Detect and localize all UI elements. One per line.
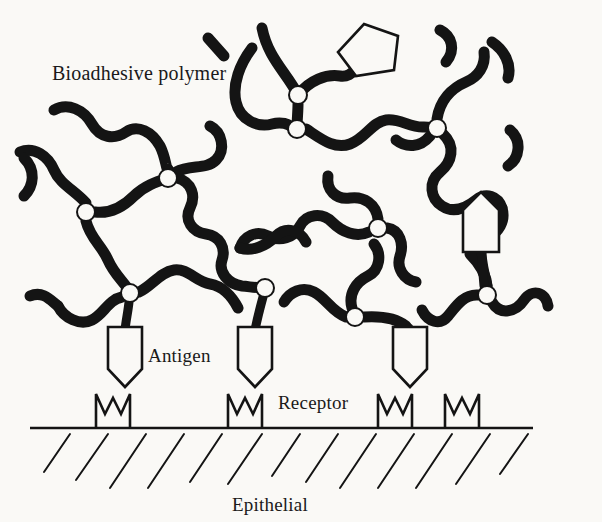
detached-chain-fragment bbox=[208, 38, 224, 56]
crosslink-node bbox=[428, 119, 446, 137]
polymer-chain bbox=[351, 244, 379, 308]
polymer-chain bbox=[284, 290, 346, 317]
polymer-chain bbox=[328, 176, 378, 219]
label-epithelial-cell: Epithelial cell bbox=[210, 450, 330, 522]
bound-antigen bbox=[238, 327, 272, 387]
receptor bbox=[228, 394, 262, 428]
crosslink-node bbox=[346, 308, 364, 326]
crosslink-node bbox=[289, 86, 307, 104]
crosslink-node bbox=[288, 120, 306, 138]
polymer-chain bbox=[54, 107, 168, 169]
crosslink-node bbox=[256, 279, 274, 297]
polymer-chain bbox=[58, 297, 122, 322]
free-antigen-top bbox=[338, 24, 398, 76]
crosslink-node bbox=[478, 286, 496, 304]
receptor bbox=[96, 394, 130, 428]
bioadhesive-polymer-figure: Bioadhesive polymer Antigen Receptor Epi… bbox=[0, 0, 602, 522]
receptor bbox=[445, 394, 479, 428]
bound-antigen bbox=[108, 327, 142, 387]
antigen-stem bbox=[481, 250, 484, 286]
polymer-chain bbox=[24, 158, 32, 196]
polymer-chain bbox=[387, 228, 416, 282]
receptor bbox=[378, 394, 412, 428]
polymer-chain bbox=[364, 317, 406, 326]
polymer-chain bbox=[95, 178, 168, 212]
antigen-stem bbox=[255, 297, 263, 330]
polymer-chain bbox=[262, 28, 298, 95]
bound-antigen bbox=[393, 327, 427, 387]
polymer-chain bbox=[422, 295, 478, 322]
label-antigen: Antigen bbox=[148, 345, 211, 367]
label-bioadhesive-polymer: Bioadhesive polymer bbox=[52, 62, 226, 85]
polymer-chain bbox=[432, 134, 502, 210]
polymer-chain bbox=[440, 30, 452, 62]
crosslink-node bbox=[77, 203, 95, 221]
polymer-chain bbox=[492, 42, 509, 78]
polymer-chain bbox=[176, 126, 222, 172]
label-receptor: Receptor bbox=[278, 392, 348, 414]
polymer-chain bbox=[30, 294, 58, 306]
label-epithelial-line1: Epithelial bbox=[210, 494, 330, 516]
crosslink-node bbox=[159, 169, 177, 187]
polymer-chain bbox=[492, 293, 548, 311]
polymer-chain bbox=[396, 136, 430, 146]
polymer-chain bbox=[508, 130, 518, 166]
crosslink-node bbox=[121, 284, 139, 302]
polymer-chain bbox=[86, 221, 130, 292]
polymer-chain bbox=[235, 48, 297, 129]
crosslink-node bbox=[369, 219, 387, 237]
